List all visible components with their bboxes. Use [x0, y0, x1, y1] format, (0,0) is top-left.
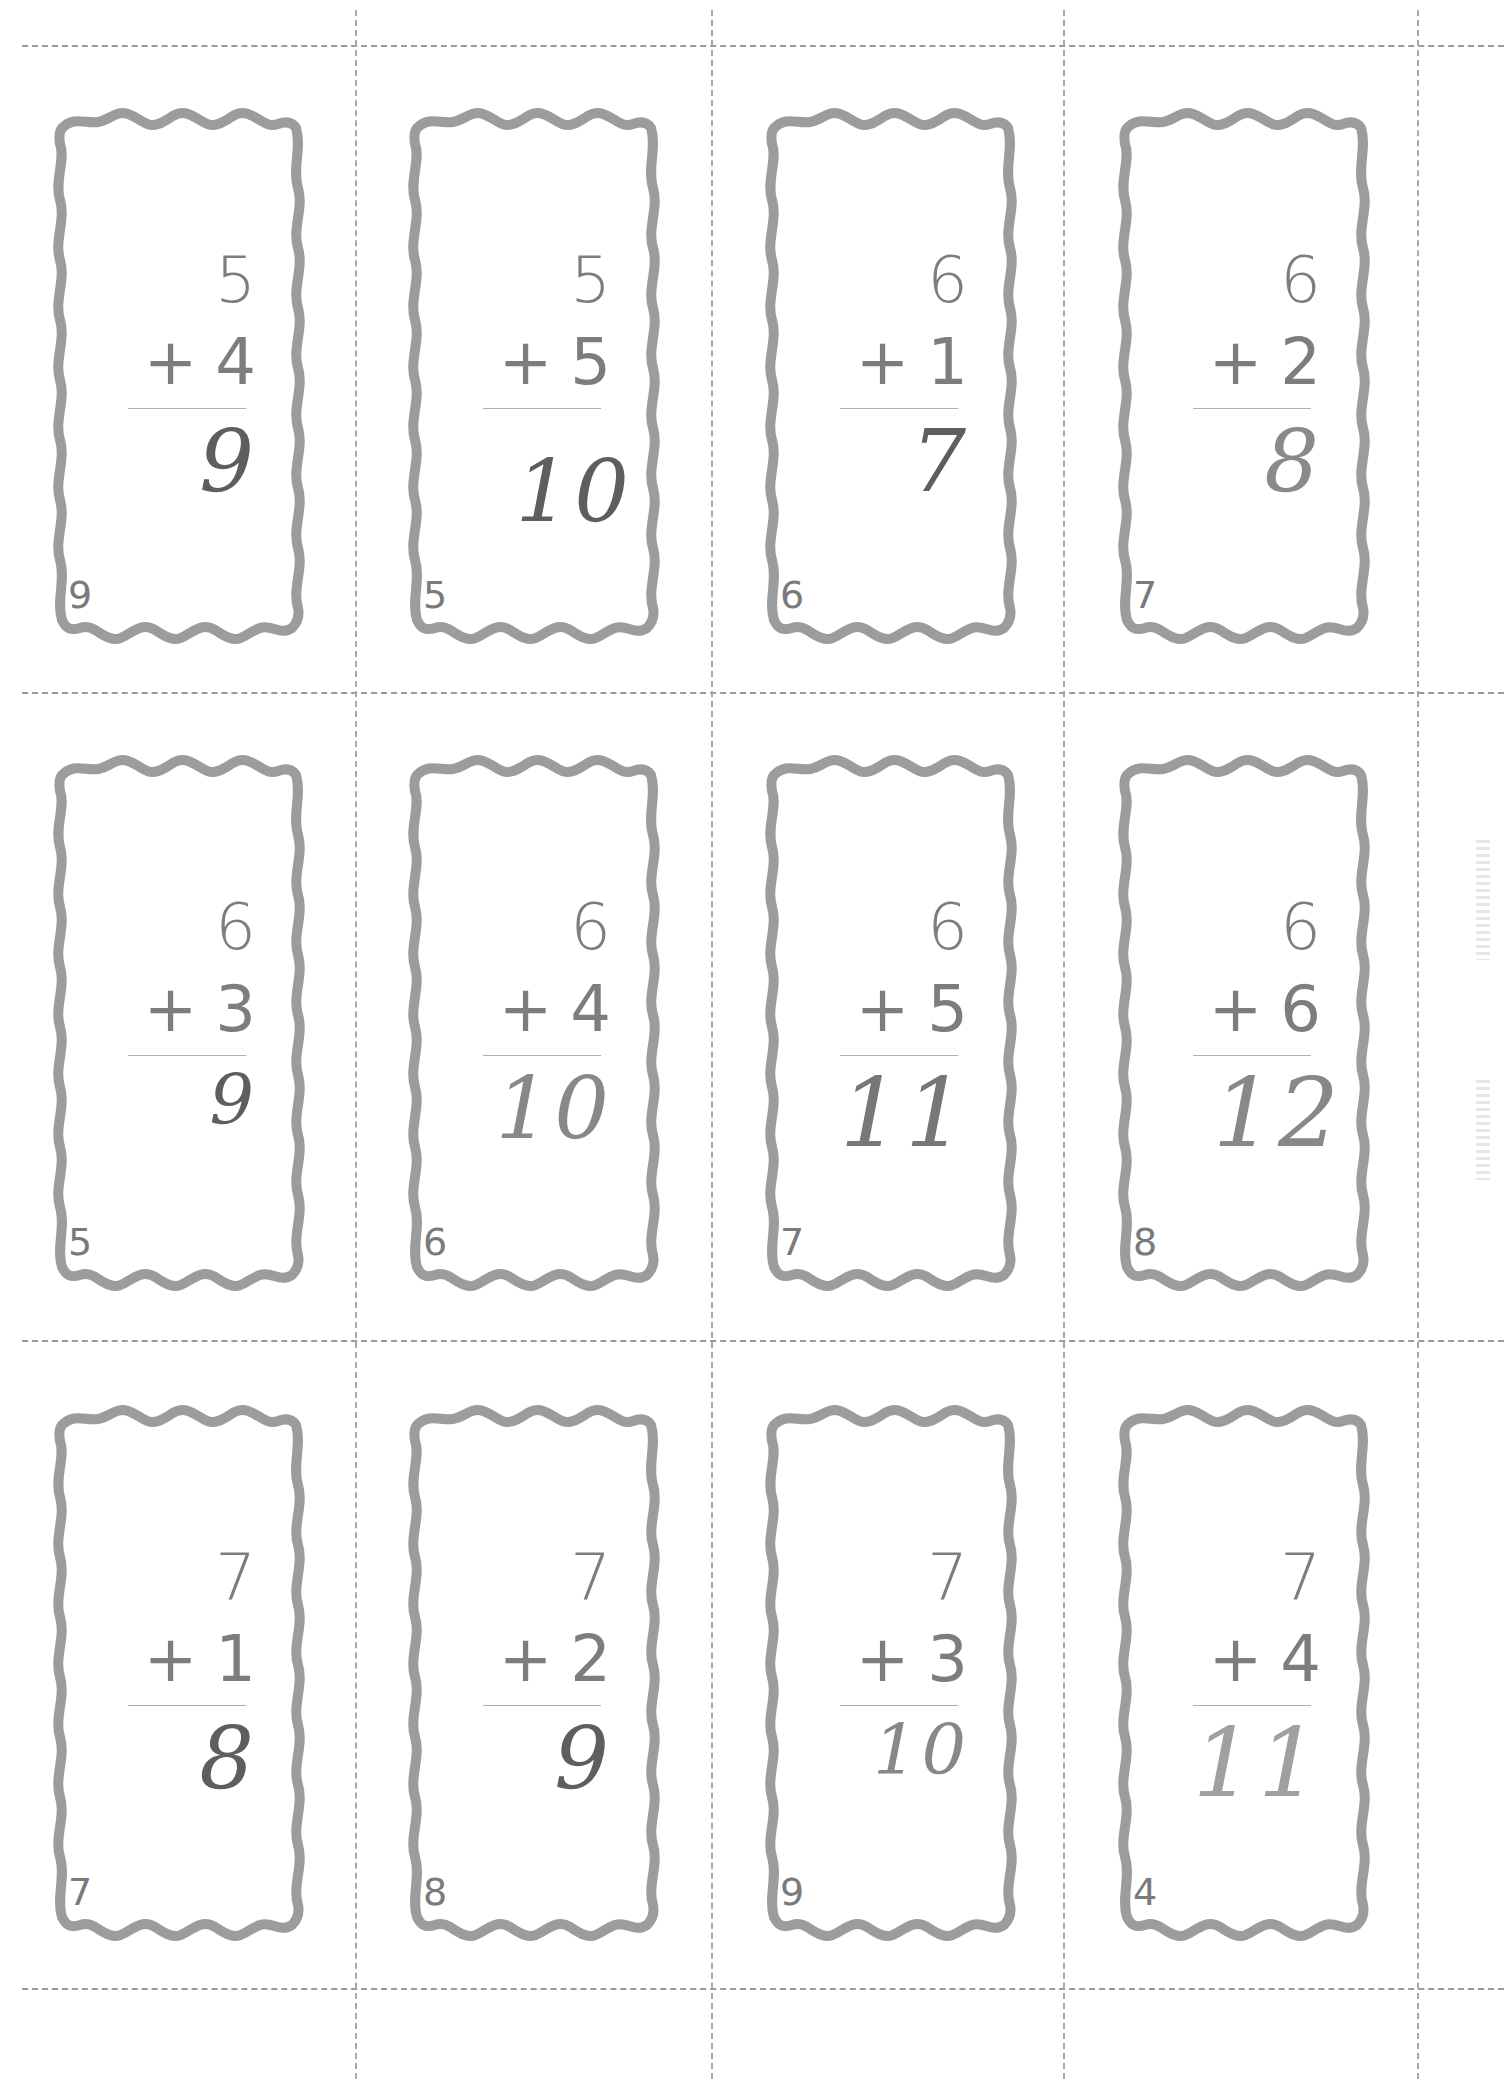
flash-card-sheet: 5 +4 9 9 5 +5 10 5 6 +1 7 6 6 +2: [0, 0, 1504, 2079]
plus-sign: +: [499, 325, 553, 399]
sum-line: [1193, 1705, 1311, 1706]
bottom-addend-row: +4: [1209, 1627, 1321, 1691]
bottom-addend-row: +3: [144, 977, 256, 1041]
sum-line: [128, 1055, 246, 1056]
bottom-addend: 2: [570, 1622, 611, 1696]
top-addend: 5: [215, 248, 256, 312]
bottom-addend-row: +5: [856, 977, 968, 1041]
bottom-addend-row: +1: [144, 1627, 256, 1691]
bottom-addend-row: +4: [144, 330, 256, 394]
cut-line-horizontal: [22, 1340, 1504, 1342]
sum-line: [840, 408, 958, 409]
flash-card: 7 +4 11 4: [1105, 1385, 1383, 1953]
plus-sign: +: [1209, 325, 1263, 399]
plus-sign: +: [1209, 972, 1263, 1046]
handwritten-answer: 11: [1193, 1715, 1323, 1811]
cut-line-vertical: [355, 10, 357, 2079]
flash-card: 6 +4 10 6: [395, 735, 673, 1303]
flash-card: 6 +1 7 6: [752, 88, 1030, 656]
handwritten-answer: 12: [1213, 1065, 1343, 1161]
addition-problem: 7 +4 11: [1105, 1385, 1383, 1953]
plus-sign: +: [144, 1622, 198, 1696]
handwritten-answer: 9: [554, 1715, 613, 1801]
bottom-addend-row: +1: [856, 330, 968, 394]
scan-artifact: [1476, 840, 1490, 960]
card-number: 8: [423, 1873, 447, 1911]
sum-line: [128, 408, 246, 409]
bottom-addend: 3: [215, 972, 256, 1046]
handwritten-answer: 10: [873, 1715, 970, 1785]
addition-problem: 6 +6 12: [1105, 735, 1383, 1303]
top-addend: 7: [570, 1545, 611, 1609]
card-number: 9: [780, 1873, 804, 1911]
sum-line: [128, 1705, 246, 1706]
plus-sign: +: [856, 1622, 910, 1696]
top-addend: 6: [215, 895, 256, 959]
scan-artifact: [1476, 1080, 1490, 1180]
card-number: 7: [68, 1873, 92, 1911]
bottom-addend-row: +5: [499, 330, 611, 394]
top-addend: 6: [1280, 895, 1321, 959]
sum-line: [483, 408, 601, 409]
addition-problem: 7 +3 10: [752, 1385, 1030, 1953]
handwritten-answer: 9: [199, 418, 258, 504]
top-addend: 6: [927, 895, 968, 959]
plus-sign: +: [1209, 1622, 1263, 1696]
flash-card: 6 +5 11 7: [752, 735, 1030, 1303]
addition-problem: 6 +3 9: [40, 735, 318, 1303]
sum-line: [840, 1055, 958, 1056]
plus-sign: +: [856, 972, 910, 1046]
cut-line-vertical: [1063, 10, 1065, 2079]
handwritten-answer: 11: [840, 1065, 970, 1161]
bottom-addend: 4: [215, 325, 256, 399]
plus-sign: +: [499, 1622, 553, 1696]
addition-problem: 6 +1 7: [752, 88, 1030, 656]
top-addend: 7: [215, 1545, 256, 1609]
bottom-addend-row: +4: [499, 977, 611, 1041]
flash-card: 6 +6 12 8: [1105, 735, 1383, 1303]
bottom-addend: 5: [570, 325, 611, 399]
top-addend: 6: [570, 895, 611, 959]
card-number: 5: [423, 576, 447, 614]
bottom-addend: 3: [927, 1622, 968, 1696]
addition-problem: 6 +4 10: [395, 735, 673, 1303]
flash-card: 6 +3 9 5: [40, 735, 318, 1303]
plus-sign: +: [144, 325, 198, 399]
flash-card: 7 +3 10 9: [752, 1385, 1030, 1953]
bottom-addend-row: +2: [1209, 330, 1321, 394]
handwritten-answer: 10: [496, 1065, 613, 1151]
bottom-addend: 6: [1280, 972, 1321, 1046]
addition-problem: 7 +2 9: [395, 1385, 673, 1953]
cut-line-horizontal: [22, 692, 1504, 694]
bottom-addend: 1: [927, 325, 968, 399]
handwritten-answer: 8: [1264, 418, 1323, 504]
top-addend: 5: [570, 248, 611, 312]
bottom-addend: 4: [570, 972, 611, 1046]
cut-line-horizontal: [22, 45, 1504, 47]
sum-line: [483, 1055, 601, 1056]
card-number: 6: [780, 576, 804, 614]
addition-problem: 5 +5 10: [395, 88, 673, 656]
flash-card: 7 +2 9 8: [395, 1385, 673, 1953]
cut-line-horizontal: [22, 1988, 1504, 1990]
addition-problem: 6 +5 11: [752, 735, 1030, 1303]
bottom-addend: 4: [1280, 1622, 1321, 1696]
card-number: 6: [423, 1223, 447, 1261]
cut-line-vertical: [711, 10, 713, 2079]
card-number: 5: [68, 1223, 92, 1261]
handwritten-answer: 7: [911, 418, 970, 504]
card-number: 8: [1133, 1223, 1157, 1261]
flash-card: 5 +4 9 9: [40, 88, 318, 656]
bottom-addend: 1: [215, 1622, 256, 1696]
card-number: 9: [68, 576, 92, 614]
card-number: 7: [780, 1223, 804, 1261]
flash-card: 5 +5 10 5: [395, 88, 673, 656]
flash-card: 7 +1 8 7: [40, 1385, 318, 1953]
top-addend: 7: [927, 1545, 968, 1609]
bottom-addend: 5: [927, 972, 968, 1046]
sum-line: [840, 1705, 958, 1706]
sum-line: [1193, 408, 1311, 409]
bottom-addend-row: +6: [1209, 977, 1321, 1041]
handwritten-answer: 10: [516, 448, 633, 534]
addition-problem: 5 +4 9: [40, 88, 318, 656]
